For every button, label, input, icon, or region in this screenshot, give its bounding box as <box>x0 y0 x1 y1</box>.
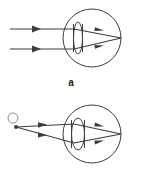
refracted-arrow-upper-icon <box>94 123 104 127</box>
panel-label-a: a <box>0 78 142 88</box>
refracted-arrow-upper-icon <box>94 27 104 31</box>
incoming-arrow-upper-icon <box>32 26 41 33</box>
object-arrow-lower-icon <box>38 132 47 137</box>
refracted-arrow-lower-icon <box>94 140 104 144</box>
eyeball-circle <box>63 9 121 67</box>
eye-lens-flat <box>74 22 83 54</box>
object-arrow-upper-icon <box>38 122 47 128</box>
object-circle <box>8 113 18 123</box>
refracted-arrow-lower-icon <box>94 45 104 49</box>
incoming-arrow-lower-icon <box>32 46 41 53</box>
panel-a-distant-object: a <box>0 0 142 98</box>
ray-diagram-b <box>0 98 142 196</box>
panel-b-near-object: b <box>0 98 142 196</box>
figure-root: a b <box>0 0 142 196</box>
eye-lens-rounded <box>72 118 85 150</box>
